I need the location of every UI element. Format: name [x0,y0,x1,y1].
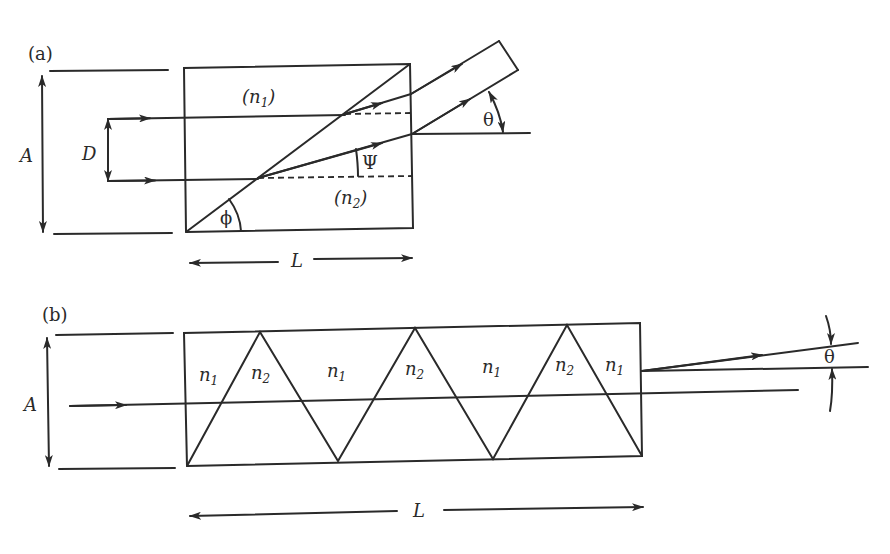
panel-b-label: (b) [42,304,68,325]
region-label: n1 [482,356,501,380]
aperture-bottom-guide-b [59,468,175,469]
aperture-dimension-arrow [42,76,43,232]
output-upper-arrow [411,64,462,94]
length-arrow-left-b [190,511,397,516]
region-label: n2 [251,362,270,386]
beam-separation-label: D [81,143,97,164]
angle-theta-label-b: θ [824,346,835,367]
lower-beam-arrow [108,180,155,181]
undeflected-reference-beam [70,390,798,406]
theta-reference-line [412,133,530,134]
aperture-label-a: A [18,145,33,166]
panel-a: (a) A D θ [18,41,530,271]
region-n2-label: (n2) [334,187,367,211]
length-arrow-right-b [444,507,643,510]
length-label-l-b: L [412,500,425,521]
output-beam-end [499,41,518,70]
panel-a-label: (a) [28,43,53,64]
aperture-label-a-b: A [22,394,37,415]
length-label-l: L [290,250,303,271]
region-label: n1 [327,360,346,384]
psi-angle-arc [356,149,358,176]
theta-arrow-bottom [830,369,832,411]
length-arrow-right [314,258,412,259]
angle-psi-label: Ψ [362,152,378,173]
angle-theta-label: θ [483,109,494,130]
input-beam-arrow [70,405,126,406]
angle-phi-label: ϕ [220,207,232,228]
region-label: n1 [605,354,624,378]
aperture-dimension-arrow-b [47,338,49,466]
aperture-bottom-guide [54,233,172,234]
region-n1-label: (n1) [242,86,275,110]
length-arrow-left [190,262,278,263]
lower-reference-dashed [258,176,412,178]
upper-beam-arrow [108,118,150,119]
upper-reference-dashed [345,113,411,114]
aperture-top-guide-b [56,333,173,335]
prism-beam-deflector-diagram: (a) A D θ [0,0,890,554]
region-label: n1 [199,364,218,388]
panel-b: (b) A θ n1 n2 n1 n2 n1 n2 n1 L [22,304,868,521]
output-lower-arrow [412,99,470,134]
theta-arrow-top [826,316,831,344]
aperture-top-guide [50,70,168,71]
region-label: n2 [555,354,574,378]
region-label: n2 [405,358,424,382]
